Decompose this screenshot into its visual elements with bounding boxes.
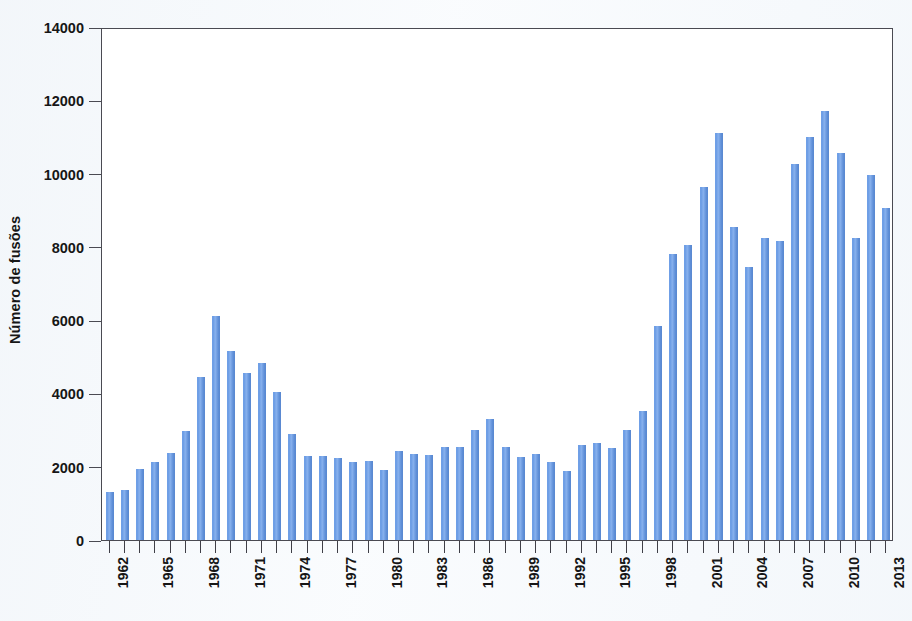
bar (227, 351, 235, 540)
x-axis-tick-label: 1962 (115, 557, 131, 588)
y-axis-tick-mark (89, 541, 101, 542)
x-axis-tick-mark (154, 541, 155, 553)
x-axis-tick-mark (581, 541, 582, 553)
y-axis-tick-mark (89, 467, 101, 468)
bar (669, 254, 677, 540)
y-axis-tick-label: 2000 (0, 460, 84, 476)
x-axis-tick-label: 2001 (709, 557, 725, 588)
y-axis-tick-label: 12000 (0, 93, 84, 109)
bar (106, 492, 114, 540)
bar (852, 238, 860, 540)
x-axis-tick-mark (809, 541, 810, 553)
x-axis-tick-mark (794, 541, 795, 553)
bar (410, 454, 418, 540)
x-axis-tick-mark (109, 541, 110, 553)
x-axis-tick-mark (474, 541, 475, 553)
x-axis-tick-label: 1968 (206, 557, 222, 588)
x-axis-tick-label: 1977 (343, 557, 359, 588)
bar (608, 448, 616, 540)
bar (197, 377, 205, 540)
chart-screenshot: Número de fusões 02000400060008000100001… (0, 0, 912, 621)
bar (243, 373, 251, 540)
x-axis-tick-mark (840, 541, 841, 553)
x-axis-tick-mark (885, 541, 886, 553)
y-axis-tick-mark (89, 247, 101, 248)
x-axis-tick-mark (779, 541, 780, 553)
x-axis-tick-mark (718, 541, 719, 553)
bar (258, 363, 266, 540)
x-axis-tick-mark (535, 541, 536, 553)
x-axis-tick-mark (368, 541, 369, 553)
x-axis-tick-mark (185, 541, 186, 553)
x-axis-tick-label: 1974 (297, 557, 313, 588)
x-axis-tick-mark (489, 541, 490, 553)
x-axis-tick-mark (733, 541, 734, 553)
x-axis-tick-label: 1965 (160, 557, 176, 588)
bar (867, 175, 875, 540)
bar (547, 462, 555, 540)
x-axis-tick-label: 1995 (617, 557, 633, 588)
bar (593, 443, 601, 540)
x-axis-tick-label: 1983 (434, 557, 450, 588)
x-axis-tick-mark (566, 541, 567, 553)
x-axis-tick-mark (413, 541, 414, 553)
y-axis-tick-label: 14000 (0, 20, 84, 36)
x-axis-tick-mark (505, 541, 506, 553)
bar (745, 267, 753, 540)
bar (837, 153, 845, 540)
x-axis-tick-mark (428, 541, 429, 553)
x-axis-tick-mark (276, 541, 277, 553)
bar (532, 454, 540, 540)
y-axis-tick-label: 8000 (0, 240, 84, 256)
x-axis-tick-mark (870, 541, 871, 553)
x-axis-tick-label: 1980 (389, 557, 405, 588)
y-axis-tick-label: 4000 (0, 386, 84, 402)
y-axis-tick-label: 6000 (0, 313, 84, 329)
bar (136, 469, 144, 540)
y-axis-title: Número de fusões (0, 0, 30, 560)
x-axis-tick-mark (170, 541, 171, 553)
x-axis-tick-mark (687, 541, 688, 553)
bar (486, 419, 494, 540)
x-axis-tick-mark (855, 541, 856, 553)
x-axis-tick-mark (322, 541, 323, 553)
x-axis-tick-mark (672, 541, 673, 553)
x-axis-tick-mark (261, 541, 262, 553)
y-axis-tick-mark (89, 174, 101, 175)
bar (684, 245, 692, 540)
bar (304, 456, 312, 540)
bar (349, 462, 357, 540)
x-axis-tick-mark (124, 541, 125, 553)
x-axis-tick-mark (642, 541, 643, 553)
bar (319, 456, 327, 540)
x-axis-tick-label: 1989 (526, 557, 542, 588)
bar (167, 453, 175, 540)
bar (806, 137, 814, 540)
bar (395, 451, 403, 540)
x-axis-tick-mark (215, 541, 216, 553)
x-axis-tick-mark (764, 541, 765, 553)
bar (380, 470, 388, 540)
x-axis-tick-mark (291, 541, 292, 553)
x-axis-tick-mark (520, 541, 521, 553)
x-axis-tick-mark (383, 541, 384, 553)
x-axis-tick-mark (824, 541, 825, 553)
bar (182, 431, 190, 540)
y-axis-tick-label: 10000 (0, 167, 84, 183)
bar (456, 447, 464, 540)
bar (563, 471, 571, 540)
bar (776, 241, 784, 540)
bar (288, 434, 296, 540)
bar (334, 458, 342, 540)
x-axis-tick-mark (611, 541, 612, 553)
bar (212, 316, 220, 540)
x-axis-tick-mark (596, 541, 597, 553)
x-axis-tick-mark (626, 541, 627, 553)
x-axis-tick-label: 2004 (754, 557, 770, 588)
x-axis-tick-label: 2013 (891, 557, 907, 588)
x-axis-tick-mark (200, 541, 201, 553)
bar (151, 462, 159, 540)
x-axis-tick-label: 1992 (572, 557, 588, 588)
x-axis-tick-mark (230, 541, 231, 553)
bar (715, 133, 723, 540)
